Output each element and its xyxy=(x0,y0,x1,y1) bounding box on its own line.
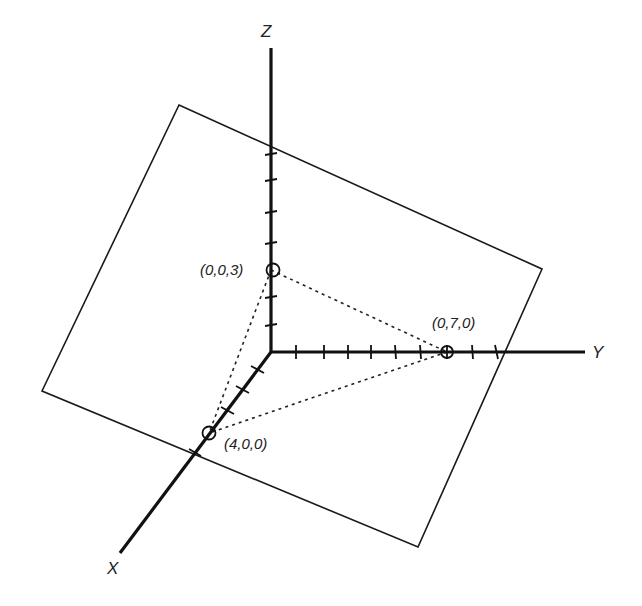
dotted-line-z-to-y xyxy=(271,270,447,352)
coordinate-diagram xyxy=(0,0,642,606)
point-marker-z xyxy=(267,264,280,277)
point-label-y: (0,7,0) xyxy=(432,315,475,330)
point-label-x: (4,0,0) xyxy=(224,436,267,451)
x-axis-label: X xyxy=(107,560,118,577)
y-axis-label: Y xyxy=(592,344,603,361)
dotted-line-y-to-x xyxy=(209,352,447,433)
point-label-z: (0,0,3) xyxy=(200,262,243,277)
diagram-canvas: Z Y X (0,0,3) (0,7,0) (4,0,0) xyxy=(0,0,642,606)
dotted-line-z-to-x xyxy=(209,270,271,433)
z-axis-label: Z xyxy=(261,23,271,40)
